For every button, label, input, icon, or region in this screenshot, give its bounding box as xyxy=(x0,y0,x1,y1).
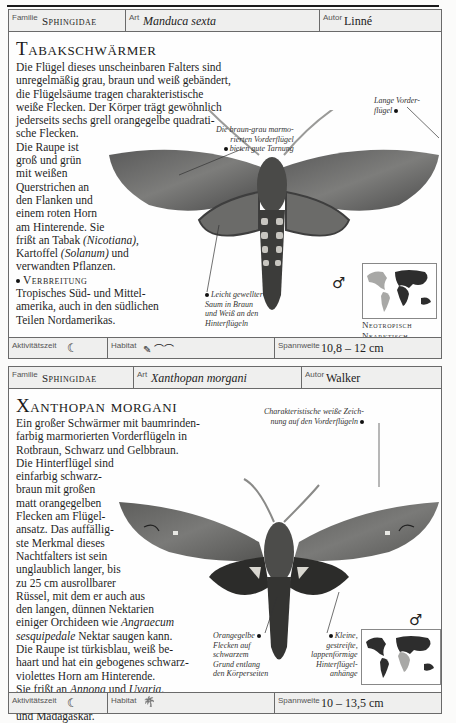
pointer-dot-icon xyxy=(224,147,228,151)
moon-icon: ☾ xyxy=(67,341,78,356)
card-footer: Aktivitätszeit ☾ Habitat ✎ ⌒⌒ Spannweite… xyxy=(9,337,441,358)
palm-tree-icon: 🌴 xyxy=(143,696,155,707)
caption-hindwing-lobes: Kleine, gestreifte, lappenförmige Hinter… xyxy=(311,631,358,679)
text-line: Rotbraun, Schwarz und Gelbbraun. xyxy=(16,444,276,457)
wingspan-value: 10 – 13,5 cm xyxy=(321,696,384,711)
caption-white-markings: Charakteristische weiße Zeich- nung auf … xyxy=(264,407,364,426)
habitat-cell: Habitat ✎ ⌒⌒ xyxy=(108,338,275,358)
familie-value: Sphingidae xyxy=(42,372,97,384)
pointer-dot-icon xyxy=(257,634,261,638)
habitat-label: Habitat xyxy=(111,696,136,705)
card-header: Familie Sphingidae Art Xanthopan morgani… xyxy=(9,367,441,389)
autor-cell: Autor Walker xyxy=(302,367,441,388)
autor-label: Autor xyxy=(323,13,342,22)
art-cell: Art Xanthopan morgani xyxy=(134,367,302,388)
distribution-map xyxy=(361,629,441,685)
male-symbol-icon: ♂ xyxy=(332,274,345,292)
familie-label: Familie xyxy=(12,13,38,22)
caption-orange-spots: Orangegelbe Flecken auf schwarzem Grund … xyxy=(213,631,268,679)
familie-label: Familie xyxy=(12,370,38,379)
wingspan-value: 10,8 – 12 cm xyxy=(321,341,384,356)
familie-cell: Familie Sphingidae xyxy=(9,367,134,388)
activity-cell: Aktivitätszeit ☾ xyxy=(9,338,108,358)
art-label: Art xyxy=(129,13,139,22)
text-line: unregelmäßig grau, braun und weiß gebänd… xyxy=(16,74,276,87)
text-line: Ein großer Schwärmer mit baumrinden- xyxy=(16,417,276,430)
art-value: Manduca sexta xyxy=(143,14,216,29)
art-cell: Art Manduca sexta xyxy=(126,10,320,31)
wingspan-label: Spannweite xyxy=(278,696,320,705)
text-line: farbig marmorierten Vorderflügeln in xyxy=(16,430,276,443)
wingspan-cell: Spannweite 10,8 – 12 cm xyxy=(275,338,441,358)
text-line: die Flügelsäume tragen charakteristische xyxy=(16,88,276,101)
moon-icon: ☾ xyxy=(67,696,78,711)
species-card-manduca-sexta: Familie Sphingidae Art Manduca sexta Aut… xyxy=(8,9,442,359)
activity-label: Aktivitätszeit xyxy=(12,341,56,350)
activity-cell: Aktivitätszeit ☾ xyxy=(9,693,108,713)
card-footer: Aktivitätszeit ☾ Habitat 🌴 Spannweite 10… xyxy=(9,692,441,713)
pointer-dot-icon xyxy=(394,109,398,113)
familie-value: Sphingidae xyxy=(42,15,97,27)
distribution-map xyxy=(362,263,437,319)
caption-long-forewing: Lange Vorder- flügel xyxy=(374,96,420,115)
world-map-icon xyxy=(363,264,436,318)
art-value: Xanthopan morgani xyxy=(151,371,247,386)
habitat-plant-and-hills-icon: ✎ ⌒⌒ xyxy=(143,341,174,356)
caption-hindwing-margin: Leicht gewellter Saum in Braun und Weiß … xyxy=(205,290,263,328)
species-card-xanthopan-morgani: Familie Sphingidae Art Xanthopan morgani… xyxy=(8,366,442,714)
caption-forewing-camouflage: Die braun-grau marmo- rierten Vorderflüg… xyxy=(216,125,294,154)
autor-cell: Autor Linné xyxy=(320,10,441,31)
world-map-icon xyxy=(362,630,440,684)
pointer-dot-icon xyxy=(329,634,333,638)
autor-value: Linné xyxy=(344,14,372,29)
bullet-icon xyxy=(16,279,20,283)
pointer-dot-icon xyxy=(360,420,364,424)
activity-label: Aktivitätszeit xyxy=(12,696,56,705)
habitat-cell: Habitat 🌴 xyxy=(108,693,275,713)
art-label: Art xyxy=(137,370,147,379)
card-header: Familie Sphingidae Art Manduca sexta Aut… xyxy=(9,10,441,32)
wingspan-label: Spannweite xyxy=(278,341,320,350)
male-symbol-icon: ♂ xyxy=(409,611,422,629)
species-title: Xanthopan morgani xyxy=(16,395,177,417)
wingspan-cell: Spannweite 10 – 13,5 cm xyxy=(275,693,441,713)
familie-cell: Familie Sphingidae xyxy=(9,10,126,31)
autor-label: Autor xyxy=(305,370,324,379)
page-top-rule xyxy=(7,5,439,7)
habitat-label: Habitat xyxy=(111,341,136,350)
text-line: Die Flügel dieses unscheinbaren Falters … xyxy=(16,61,276,74)
autor-value: Walker xyxy=(326,371,360,386)
pointer-dot-icon xyxy=(205,293,209,297)
species-title: Tabakschwärmer xyxy=(16,38,157,60)
